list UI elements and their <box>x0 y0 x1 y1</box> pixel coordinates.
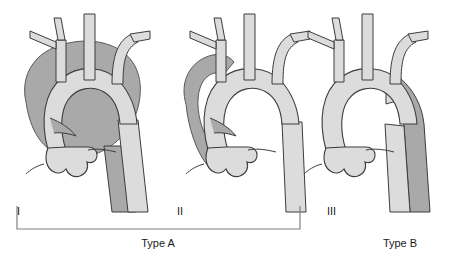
group-label-type-b: Type B <box>360 238 440 249</box>
right-common-carotid-2 <box>214 18 225 40</box>
coronary-artery-right-1 <box>26 164 44 174</box>
left-subclavian-distal-2 <box>290 31 310 42</box>
right-subclavian-branch-1 <box>30 31 56 49</box>
left-subclavian-distal-1 <box>130 31 150 42</box>
descending-aorta-2 <box>282 122 306 212</box>
left-subclavian-distal-3 <box>408 31 428 42</box>
coronary-artery-right-3 <box>304 164 322 174</box>
group-label-type-a: Type A <box>118 238 198 249</box>
panel-type-2 <box>184 14 310 212</box>
left-common-carotid-2 <box>244 14 255 80</box>
coronary-artery-right-2 <box>186 164 204 174</box>
roman-numeral-3: III <box>327 206 336 217</box>
panel-type-3 <box>304 14 430 212</box>
brachiocephalic-trunk-1 <box>56 40 66 82</box>
right-subclavian-branch-3 <box>308 31 334 49</box>
aortic-root-2 <box>206 147 257 177</box>
panel-type-1 <box>25 14 150 212</box>
aortic-root-3 <box>324 147 375 177</box>
left-common-carotid-1 <box>84 14 95 80</box>
roman-numeral-2: II <box>177 206 183 217</box>
brachiocephalic-trunk-3 <box>334 40 344 82</box>
aorta-diagram-svg <box>0 0 457 256</box>
right-common-carotid-3 <box>332 18 343 40</box>
brachiocephalic-trunk-2 <box>216 40 226 82</box>
type-a-bracket <box>17 206 300 229</box>
right-subclavian-branch-2 <box>190 31 216 49</box>
aortic-dissection-figure: I II III Type A Type B <box>0 0 457 256</box>
aortic-root-1 <box>46 147 97 177</box>
roman-numeral-1: I <box>17 206 20 217</box>
left-common-carotid-3 <box>362 14 373 80</box>
right-common-carotid-1 <box>54 18 65 40</box>
